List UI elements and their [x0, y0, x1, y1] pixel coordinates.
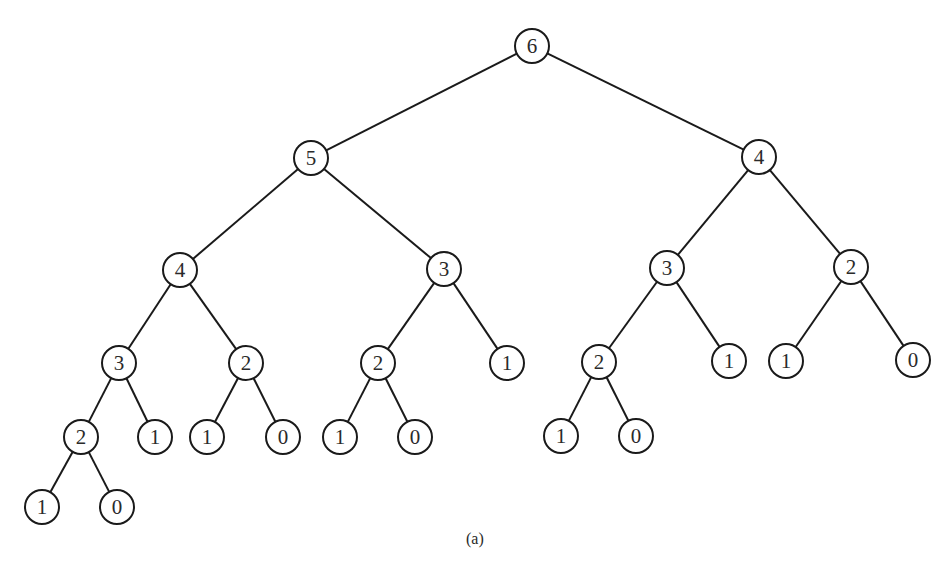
node-label: 1 [781, 349, 792, 373]
tree-node: 1 [190, 420, 224, 454]
tree-edge [453, 283, 497, 349]
tree-edge [386, 378, 408, 422]
tree-node: 1 [138, 420, 172, 454]
tree-node: 0 [896, 343, 930, 377]
node-label: 6 [527, 34, 538, 58]
node-label: 4 [754, 145, 765, 169]
node-label: 0 [908, 348, 919, 372]
tree-edge [254, 378, 276, 422]
tree-edge [190, 284, 236, 349]
tree-edge [388, 283, 434, 349]
tree-node: 1 [769, 344, 803, 378]
node-label: 1 [335, 425, 346, 449]
tree-node: 0 [100, 490, 134, 524]
tree-edge [796, 281, 842, 347]
node-label: 0 [410, 425, 421, 449]
tree-node: 2 [582, 345, 616, 379]
tree-node: 2 [64, 420, 98, 454]
tree-edge [128, 284, 170, 349]
tree-edge [569, 377, 591, 421]
tree-edge [348, 378, 370, 422]
node-label: 2 [373, 351, 384, 375]
node-label: 1 [724, 349, 735, 373]
node-label: 3 [114, 351, 125, 375]
node-label: 3 [439, 257, 450, 281]
node-label: 1 [502, 351, 513, 375]
node-label: 0 [278, 425, 289, 449]
node-label: 1 [202, 425, 213, 449]
tree-edge [607, 377, 629, 421]
tree-edge [89, 452, 109, 492]
tree-edge [860, 281, 903, 346]
tree-edge [326, 54, 517, 151]
tree-node: 4 [163, 253, 197, 287]
tree-edge [215, 378, 238, 422]
node-label: 2 [241, 351, 252, 375]
tree-edge [609, 282, 657, 348]
tree-node: 1 [544, 419, 578, 453]
node-label: 1 [556, 424, 567, 448]
node-label: 0 [631, 424, 642, 448]
node-label: 5 [306, 146, 317, 170]
node-label: 3 [662, 256, 673, 280]
tree-node: 0 [266, 420, 300, 454]
tree-edge [50, 452, 72, 492]
tree-edge [676, 282, 719, 347]
tree-node: 1 [490, 346, 524, 380]
tree-diagram: 6544332322121102110101010 [0, 0, 951, 569]
node-label: 4 [175, 258, 186, 282]
tree-node: 3 [102, 346, 136, 380]
tree-nodes: 6544332322121102110101010 [25, 29, 930, 524]
tree-node: 0 [619, 419, 653, 453]
figure-caption: (a) [466, 530, 484, 548]
node-label: 1 [150, 425, 161, 449]
node-label: 0 [112, 495, 123, 519]
tree-node: 5 [294, 141, 328, 175]
tree-node: 3 [427, 252, 461, 286]
tree-edge [547, 53, 743, 149]
node-label: 2 [76, 425, 87, 449]
node-label: 1 [37, 495, 48, 519]
tree-node: 0 [398, 420, 432, 454]
tree-node: 2 [361, 346, 395, 380]
tree-node: 1 [25, 490, 59, 524]
node-label: 2 [594, 350, 605, 374]
tree-node: 2 [834, 250, 868, 284]
tree-edge [678, 170, 748, 255]
tree-node: 4 [742, 140, 776, 174]
tree-node: 1 [712, 344, 746, 378]
tree-node: 6 [515, 29, 549, 63]
tree-node: 1 [323, 420, 357, 454]
tree-edge [770, 170, 840, 254]
tree-edge [126, 378, 147, 421]
tree-edge [89, 378, 111, 422]
node-label: 2 [846, 255, 857, 279]
tree-edge [324, 169, 431, 258]
tree-edge [193, 169, 298, 259]
tree-node: 2 [229, 346, 263, 380]
tree-node: 3 [650, 251, 684, 285]
